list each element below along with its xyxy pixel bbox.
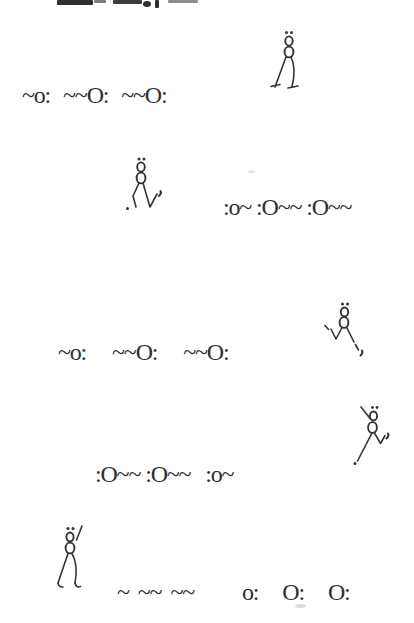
- leaping-oxygen-stick-figure: [322, 300, 368, 358]
- cropped-text-fragment: [168, 0, 198, 3]
- lone-pair-dot: [341, 303, 344, 306]
- oxygen-body: [340, 317, 349, 328]
- left-foot: [271, 85, 280, 87]
- lone-pair-dot: [346, 303, 349, 306]
- left-leg: [58, 554, 68, 584]
- oxygen-notation: ~o:: [58, 340, 86, 364]
- lone-pair-dot: [376, 406, 379, 409]
- right-foot: [288, 86, 298, 88]
- oxygen-head: [341, 308, 348, 317]
- oxygen-notation: ~~O:: [121, 83, 166, 107]
- oxygen-body: [368, 422, 377, 433]
- oxygen-notation: ~~O:: [112, 340, 157, 364]
- left-leg: [358, 433, 373, 461]
- oxygen-notation: :O~~: [256, 195, 301, 219]
- oxygen-notation: :o~: [205, 462, 233, 486]
- left-leg: [331, 328, 342, 340]
- scan-smudge: [248, 170, 255, 173]
- foot-mark-apostrophe: [159, 191, 161, 196]
- notation-row-3: ~o: ~~O: ~~O:: [58, 340, 228, 364]
- cropped-text-fragment: [57, 0, 93, 5]
- notation-row-2: :o~ :O~~ :O~~: [223, 195, 351, 219]
- cropped-text-fragment: [94, 0, 106, 3]
- right-leg: [291, 57, 294, 87]
- left-leg: [275, 57, 286, 87]
- squiggle-bond: ~: [117, 580, 129, 604]
- kicking-oxygen-stick-figure: [352, 402, 394, 468]
- arm: [77, 526, 83, 540]
- cropped-text-fragment: [155, 0, 159, 8]
- oxygen-head: [66, 533, 73, 542]
- lone-pair-dot: [371, 406, 374, 409]
- notation-row-1: ~o: ~~O: ~~O:: [22, 83, 166, 107]
- foot-mark-apostrophe: [387, 434, 389, 439]
- foot-mark-comma: [361, 351, 363, 356]
- oxygen-head: [370, 412, 377, 421]
- oxygen-notation: o:: [242, 580, 258, 604]
- walking-oxygen-stick-figure: [268, 27, 304, 91]
- foot-mark-dot: [354, 462, 357, 465]
- lone-pair-dot: [143, 158, 146, 161]
- left-foot: [58, 583, 63, 587]
- right-leg: [72, 554, 76, 584]
- oxygen-notation: :O~~: [145, 462, 190, 486]
- oxygen-body: [66, 543, 75, 554]
- cropped-text-fragment: [143, 1, 151, 7]
- oxygen-notation: ~o:: [22, 83, 50, 107]
- lone-pair-dot: [138, 158, 141, 161]
- lone-pair-dot: [285, 31, 288, 34]
- lone-pair-dot: [67, 527, 70, 530]
- oxygen-notation: ~~O:: [63, 83, 108, 107]
- oxygen-notation: :o~: [223, 195, 251, 219]
- oxygen-notation: ~~O:: [183, 340, 228, 364]
- cropped-text-fragment: [113, 0, 142, 4]
- foot-mark-dot: [126, 207, 129, 210]
- oxygen-notation: :O~~: [306, 195, 351, 219]
- squiggle-bond: ~~: [138, 580, 162, 604]
- oxygen-head: [285, 36, 292, 45]
- lone-pair-dot: [72, 527, 75, 530]
- left-leg: [133, 183, 139, 207]
- oxygen-body: [137, 173, 146, 184]
- notation-row-5: ~ ~~ ~~: [117, 580, 194, 604]
- oxygen-notation: :O~~: [95, 462, 140, 486]
- lone-pair-dot: [290, 31, 293, 34]
- right-leg: [375, 433, 386, 444]
- strutting-oxygen-stick-figure: [54, 522, 88, 590]
- oxygen-head: [137, 162, 145, 171]
- oxygen-notation: O:: [328, 580, 350, 604]
- notation-row-6: o: O: O:: [242, 580, 350, 604]
- right-leg: [347, 328, 354, 342]
- dancing-oxygen-stick-figure: [124, 155, 166, 213]
- oxygen-notation: O:: [282, 580, 304, 604]
- scanned-illustration-page: ~o: ~~O: ~~O: :o~ :O~~ :O~~ ~o: ~~O: ~~O…: [0, 0, 414, 623]
- oxygen-body: [285, 47, 294, 58]
- squiggle-bond: ~~: [170, 580, 194, 604]
- foot-mark-tick: [325, 326, 329, 330]
- right-leg: [143, 183, 157, 207]
- right-foot: [75, 583, 81, 587]
- right-leg-lower: [356, 345, 359, 351]
- notation-row-4: :O~~ :O~~ :o~: [95, 462, 233, 486]
